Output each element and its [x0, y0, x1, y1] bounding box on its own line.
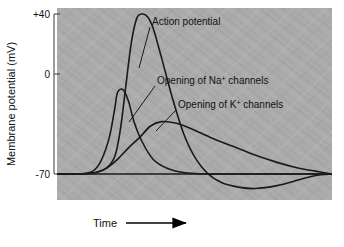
annotation-k-pre: Opening of K: [178, 99, 237, 110]
figure-canvas: +40 0 -70 Membrane potential (mV) Action…: [0, 0, 344, 247]
action-potential-figure: +40 0 -70 Membrane potential (mV) Action…: [0, 0, 344, 247]
y-tick-label-zero: 0: [44, 69, 50, 80]
x-axis-title: Time: [93, 217, 117, 229]
annotation-na-pre: Opening of Na: [157, 75, 222, 86]
annotation-action-potential: Action potential: [152, 16, 220, 27]
annotation-na-channels: Opening of Na+ channels: [157, 75, 268, 87]
y-tick-label-plus40: +40: [33, 9, 50, 20]
annotation-k-channels: Opening of K+ channels: [178, 99, 283, 111]
annotation-k-post: channels: [240, 99, 283, 110]
y-axis-title: Membrane potential (mV): [5, 42, 17, 166]
annotation-na-post: channels: [226, 75, 269, 86]
y-tick-label-minus70: -70: [36, 169, 51, 180]
